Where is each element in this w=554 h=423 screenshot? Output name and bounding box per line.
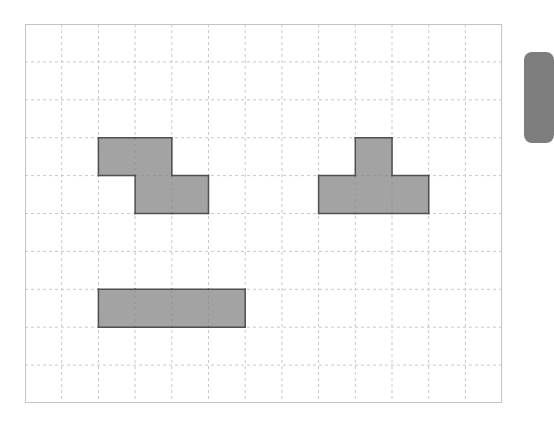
piece-cell xyxy=(209,289,246,327)
piece-cell xyxy=(135,176,172,214)
i-piece[interactable] xyxy=(98,289,245,327)
game-board[interactable] xyxy=(25,24,502,403)
piece-cell xyxy=(355,176,392,214)
board-border xyxy=(26,25,502,403)
piece-cell xyxy=(98,138,135,176)
piece-cell xyxy=(392,176,429,214)
piece-cell xyxy=(135,289,172,327)
piece-cell xyxy=(172,289,209,327)
grid xyxy=(25,24,502,403)
piece-cell xyxy=(98,289,135,327)
piece-cell xyxy=(319,176,356,214)
piece-cell xyxy=(355,138,392,176)
piece-cell xyxy=(172,176,209,214)
t-piece[interactable] xyxy=(319,138,430,214)
piece-cell xyxy=(135,138,172,176)
side-panel[interactable] xyxy=(524,52,554,143)
z-piece[interactable] xyxy=(98,138,209,214)
